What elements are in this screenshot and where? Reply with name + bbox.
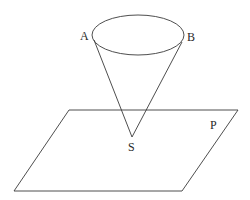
cone-plane-diagram: A B S P: [0, 0, 250, 200]
label-a: A: [80, 29, 89, 43]
cone-generator-right: [132, 42, 182, 137]
label-b: B: [187, 30, 195, 44]
cone-base-ellipse: [92, 15, 184, 55]
label-s: S: [128, 140, 135, 154]
label-p: P: [210, 118, 217, 132]
